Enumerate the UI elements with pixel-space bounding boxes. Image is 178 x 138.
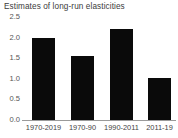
x-axis-tick-label: 1970-90 (69, 123, 96, 132)
y-axis-tick-label: 2.5 (9, 13, 20, 21)
chart-title: Estimates of long-run elasticities (4, 2, 125, 12)
bar-chart: Estimates of long-run elasticities 2.5 2… (0, 0, 178, 138)
bar-1990-2011 (110, 29, 133, 120)
y-axis-tick-label: 1.5 (9, 54, 20, 62)
y-axis: 2.5 2.0 1.5 1.0 0.5 0.0 (0, 17, 22, 120)
x-axis-tick-label: 2011-19 (146, 123, 173, 132)
x-axis-baseline (22, 120, 176, 121)
y-axis-tick-label: 1.0 (9, 75, 20, 83)
bar-1970-2019 (32, 38, 55, 120)
x-axis-tick-label: 1990-2011 (104, 123, 139, 132)
plot-area (24, 17, 176, 120)
y-axis-tick-label: 2.0 (9, 34, 20, 42)
y-axis-tick-label: 0.5 (9, 95, 20, 103)
x-axis-tick-label: 1970-2019 (26, 123, 61, 132)
bar-2011-19 (148, 78, 171, 120)
bar-1970-90 (71, 56, 94, 120)
x-axis: 1970-2019 1970-90 1990-2011 2011-19 (0, 122, 178, 136)
